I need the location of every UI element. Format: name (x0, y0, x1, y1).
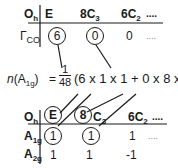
top-header-E: E (45, 7, 53, 21)
top-header-ellipsis: .... (146, 8, 157, 19)
bottom-table-corner: Oh (24, 110, 38, 126)
formula-close: ) (35, 72, 39, 86)
corner-label: O (24, 7, 33, 21)
top-header-6C2: 6C2 (121, 7, 141, 23)
header-label: E (45, 7, 53, 21)
top-row-ellipsis: .... (146, 31, 156, 41)
formula-A-sub: 1g (26, 79, 35, 88)
formula-lhs: n(A1g) (7, 72, 39, 88)
top-header-8C3: 8C3 (80, 7, 100, 23)
connector-0 (96, 45, 111, 68)
top-row-label: ΓCO (20, 29, 40, 45)
header-label: 8C (80, 7, 95, 21)
A2g-C2: -1 (126, 148, 137, 162)
formula-n: n (7, 72, 14, 86)
fraction-numerator: 1 (57, 64, 73, 75)
formula-equals: = (49, 72, 56, 86)
row-label: A (24, 147, 33, 161)
A2g-E: 1 (50, 148, 57, 162)
bottom-header-C3: C3 (93, 110, 106, 126)
corner-label: O (24, 110, 33, 124)
A2g-C3: 1 (86, 148, 93, 162)
header-sub: 3 (95, 14, 99, 23)
header-sub: 3 (102, 117, 106, 126)
top-table-corner: Oh (24, 7, 38, 23)
gamma-label: Γ (20, 29, 27, 43)
fraction: 1 48 (57, 64, 73, 88)
row-label: A (24, 129, 33, 143)
header-label: C (93, 110, 102, 124)
gamma-sub: CO (27, 35, 41, 45)
circled-value-6: 6 (48, 27, 66, 45)
bottom-header-6C2: 6C2 (128, 110, 148, 126)
circled-header-E: E (44, 106, 62, 124)
row-label-sub: 1g (33, 136, 42, 145)
A1g-C2: 1 (129, 129, 136, 143)
header-sub: 2 (143, 117, 147, 126)
header-sub: 2 (136, 14, 140, 23)
circled-header-8: 8 (74, 106, 92, 124)
row-label-A1g: A1g (24, 129, 42, 145)
corner-sub: h (33, 117, 38, 126)
corner-sub: h (33, 14, 38, 23)
circled-A1g-E: 1 (44, 127, 62, 145)
formula-A: (A (14, 72, 26, 86)
A1g-ellipsis: .... (148, 131, 158, 141)
bottom-header-ellipsis: .... (152, 111, 163, 122)
circled-A1g-C3: 1 (82, 127, 100, 145)
fraction-denominator: 48 (57, 76, 73, 88)
header-label: 6C (128, 110, 143, 124)
circled-value-0: 0 (86, 27, 104, 45)
top-row-value-c2: 0 (126, 29, 133, 43)
formula-rhs: (6 x 1 x 1 + 0 x 8 x 1 .... (74, 71, 178, 86)
row-label-A2g: A2g (24, 147, 42, 163)
row-label-sub: 2g (33, 154, 42, 163)
header-label: 6C (121, 7, 136, 21)
